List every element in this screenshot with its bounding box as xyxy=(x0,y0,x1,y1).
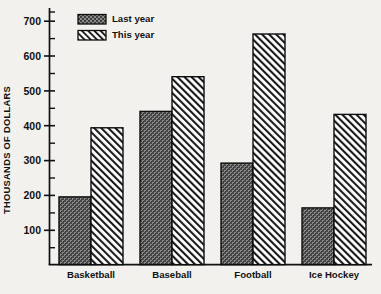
category-label-football: Football xyxy=(234,269,271,280)
bar-chart: 700 600 500 400 300 200 100 THOUSANDS OF… xyxy=(0,0,381,294)
bar-baseball-last-year xyxy=(140,111,172,264)
y-tick-label: 700 xyxy=(23,15,41,27)
category-label-baseball: Baseball xyxy=(152,269,191,280)
legend-label-last-year: Last year xyxy=(112,13,154,24)
bar-basketball-last-year xyxy=(59,197,91,265)
bar-ice-hockey-this-year xyxy=(334,114,366,264)
y-tick-label: 100 xyxy=(23,224,41,236)
y-tick-label: 200 xyxy=(23,189,41,201)
bar-ice-hockey-last-year xyxy=(302,208,334,265)
y-axis-title: THOUSANDS OF DOLLARS xyxy=(2,86,12,214)
category-label-basketball: Basketball xyxy=(67,269,115,280)
bar-basketball-this-year xyxy=(91,128,123,265)
y-tick-label: 300 xyxy=(23,154,41,166)
y-tick-label: 600 xyxy=(23,50,41,62)
category-label-ice-hockey: Ice Hockey xyxy=(309,269,360,280)
chart-canvas: 700 600 500 400 300 200 100 THOUSANDS OF… xyxy=(0,0,381,294)
y-tick-label: 400 xyxy=(23,120,41,132)
legend-swatch-this-year xyxy=(78,31,106,41)
legend-swatch-last-year xyxy=(78,15,106,25)
bar-baseball-this-year xyxy=(172,77,204,265)
bar-football-this-year xyxy=(253,34,285,265)
legend-label-this-year: This year xyxy=(112,29,154,40)
y-tick-label: 500 xyxy=(23,85,41,97)
bar-football-last-year xyxy=(221,163,253,265)
